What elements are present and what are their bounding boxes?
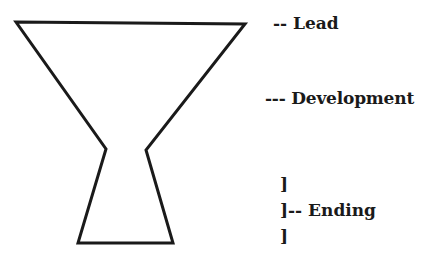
- development-label: --- Development: [265, 90, 414, 107]
- story-structure-polygon: [16, 22, 245, 243]
- ending-bracket-bottom: ]: [280, 228, 288, 245]
- ending-bracket-top: ]: [280, 176, 288, 193]
- ending-label: ]-- Ending: [280, 202, 376, 219]
- goblet-shape-outline: [0, 0, 260, 267]
- lead-label: -- Lead: [273, 15, 339, 32]
